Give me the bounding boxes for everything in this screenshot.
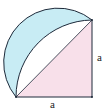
- lune-diagram: a a: [0, 0, 104, 109]
- vertex-bottom-right: [91, 96, 93, 98]
- vertex-top-right: [91, 19, 93, 21]
- label-right-leg: a: [97, 51, 102, 63]
- label-bottom-leg: a: [50, 98, 55, 109]
- vertex-bottom-left: [15, 96, 17, 98]
